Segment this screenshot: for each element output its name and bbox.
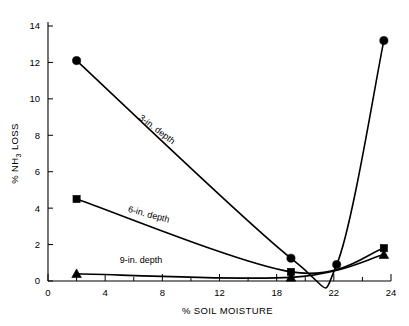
x-tick-label: 4 <box>103 287 108 298</box>
data-point-marker <box>287 254 295 262</box>
x-axis-tick-labels: 04812182224 <box>45 287 396 298</box>
series-3-in-depth <box>72 36 387 288</box>
y-axis-title: % NH3 LOSS <box>9 123 22 184</box>
x-tick-label: 18 <box>271 287 282 298</box>
series-line <box>77 41 384 288</box>
series-annotation-label: 3-in. depth <box>137 112 177 146</box>
y-tick-label: 12 <box>29 57 40 68</box>
y-tick-label: 8 <box>35 130 40 141</box>
x-tick-label: 8 <box>160 287 165 298</box>
y-tick-label: 0 <box>35 275 40 286</box>
series-annotations: 3-in. depth6-in. depth9-in. depth <box>120 112 177 264</box>
series-annotation-label: 9-in. depth <box>120 255 163 265</box>
ammonia-loss-vs-soil-moisture-chart: 02468101214 04812182224 % NH3 LOSS % SOI… <box>0 0 409 326</box>
y-tick-label: 6 <box>35 166 40 177</box>
data-point-marker <box>380 36 388 44</box>
axes <box>48 22 391 281</box>
y-tick-label: 14 <box>29 20 40 31</box>
data-point-marker <box>72 57 80 65</box>
x-tick-label: 12 <box>214 287 225 298</box>
x-axis-title: % SOIL MOISTURE <box>182 305 273 316</box>
y-tick-label: 4 <box>35 203 40 214</box>
y-axis-tick-labels: 02468101214 <box>29 20 40 286</box>
chart-figure: 02468101214 04812182224 % NH3 LOSS % SOI… <box>0 0 409 326</box>
x-tick-label: 22 <box>329 287 340 298</box>
x-tick-label: 0 <box>45 287 50 298</box>
y-axis-ticks <box>48 26 53 281</box>
y-tick-label: 10 <box>29 93 40 104</box>
series-annotation-label: 6-in. depth <box>127 204 171 225</box>
data-point-marker <box>333 261 341 269</box>
data-series-layer <box>72 36 389 288</box>
y-tick-label: 2 <box>35 239 40 250</box>
x-tick-label: 24 <box>386 287 397 298</box>
data-point-marker <box>73 195 80 202</box>
